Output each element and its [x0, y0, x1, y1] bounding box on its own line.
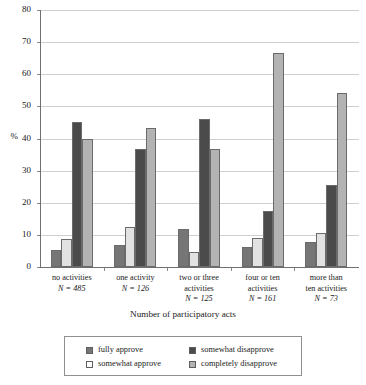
bar-two-or-three-activities-somewhat-approve — [189, 252, 200, 267]
bar-two-or-three-activities-fully-approve — [178, 229, 189, 267]
bar-no-activities-somewhat-disapprove — [72, 122, 83, 267]
bar-no-activities-somewhat-approve — [61, 239, 72, 267]
bar-chart-figure: % 01020304050607080 no activitiesN = 485… — [0, 0, 366, 385]
y-tick-label-10: 10 — [9, 230, 31, 239]
bar-four-or-ten-activities-somewhat-disapprove — [263, 211, 274, 267]
x-category-label-text: ten activities — [286, 284, 366, 295]
y-tick-label-60: 60 — [9, 69, 31, 78]
y-tick-label-30: 30 — [9, 166, 31, 175]
y-tick-label-80: 80 — [9, 5, 31, 14]
x-axis-title: Number of participatory acts — [0, 309, 366, 319]
bar-no-activities-completely-disapprove — [82, 139, 93, 267]
bar-four-or-ten-activities-somewhat-approve — [252, 238, 263, 267]
legend-label-somewhat-approve: somewhat approve — [98, 359, 161, 369]
legend-swatch-somewhat-disapprove — [189, 347, 196, 354]
x-tick-mark-1 — [104, 268, 105, 271]
legend-item-2[interactable]: somewhat disapprove — [189, 345, 274, 355]
legend-label-fully-approve: fully approve — [98, 345, 143, 355]
bar-two-or-three-activities-completely-disapprove — [210, 149, 221, 267]
legend-swatch-fully-approve — [86, 347, 93, 354]
x-tick-mark-4 — [294, 268, 295, 271]
bar-one-activity-fully-approve — [114, 245, 125, 267]
plot-area — [40, 10, 358, 267]
y-tick-label-70: 70 — [9, 37, 31, 46]
bar-one-activity-somewhat-disapprove — [135, 149, 146, 267]
legend-item-1[interactable]: somewhat approve — [86, 359, 161, 369]
x-tick-mark-3 — [231, 268, 232, 271]
bar-no-activities-fully-approve — [51, 250, 62, 267]
legend-swatch-completely-disapprove — [189, 361, 196, 368]
x-category-label-text: more than — [286, 273, 366, 284]
legend-item-0[interactable]: fully approve — [86, 345, 143, 355]
y-tick-label-50: 50 — [9, 101, 31, 110]
bar-more-than-ten-activities-completely-disapprove — [337, 93, 348, 267]
legend-label-somewhat-disapprove: somewhat disapprove — [201, 345, 274, 355]
y-tick-label-20: 20 — [9, 198, 31, 207]
bar-more-than-ten-activities-fully-approve — [305, 242, 316, 267]
bar-one-activity-completely-disapprove — [146, 128, 157, 267]
x-category-label-4: more thanten activitiesN = 73 — [286, 273, 366, 305]
legend-item-3[interactable]: completely disapprove — [189, 359, 277, 369]
x-tick-mark-2 — [167, 268, 168, 271]
bar-more-than-ten-activities-somewhat-disapprove — [326, 185, 337, 267]
bar-four-or-ten-activities-completely-disapprove — [273, 53, 284, 267]
bar-two-or-three-activities-somewhat-disapprove — [199, 119, 210, 267]
x-category-n-label: N = 73 — [286, 294, 366, 305]
legend-label-completely-disapprove: completely disapprove — [201, 359, 277, 369]
y-tick-label-0: 0 — [9, 262, 31, 271]
legend-swatch-somewhat-approve — [86, 361, 93, 368]
y-tick-label-40: 40 — [9, 134, 31, 143]
bar-four-or-ten-activities-fully-approve — [242, 247, 253, 267]
bar-more-than-ten-activities-somewhat-approve — [316, 233, 327, 267]
x-axis-line — [40, 267, 359, 268]
legend: fully approve somewhat approve somewhat … — [64, 336, 302, 376]
bar-one-activity-somewhat-approve — [125, 227, 136, 267]
